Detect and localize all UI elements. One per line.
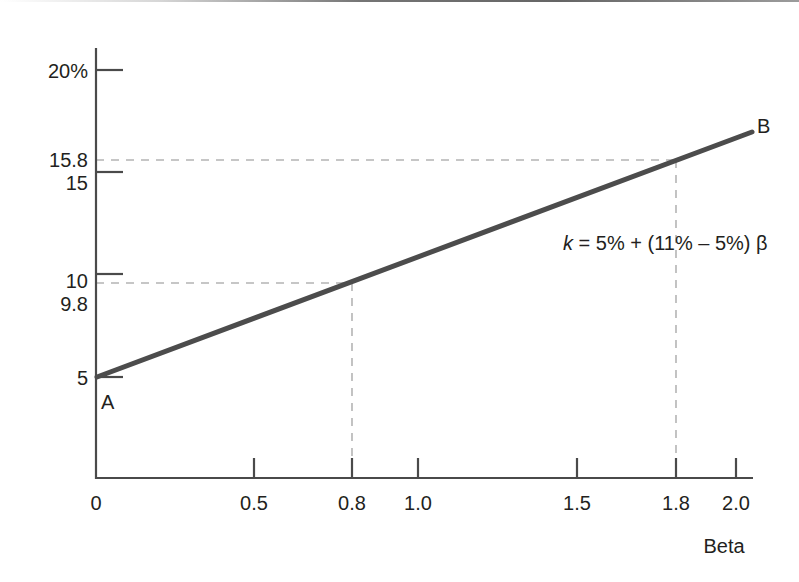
x-axis-title: Beta [703,535,745,557]
y-axis-label-15-8: 15.8 [49,149,88,171]
y-axis-label-9-8: 9.8 [60,293,88,315]
axes [95,48,753,479]
x-axis-label-1-5: 1.5 [563,492,591,514]
point-b-label: B [757,115,770,137]
y-axis-label-15: 15 [66,172,88,194]
x-axis-ticks [254,458,736,478]
reference-lines [96,160,676,478]
y-axis-label-5: 5 [77,367,88,389]
x-axis-label-1-8: 1.8 [662,492,690,514]
chart-canvas: 20% 15.8 15 10 9.8 5 0 0.5 0.8 1.0 1.5 1… [0,0,799,582]
point-a-label: A [101,391,115,413]
security-market-line [97,132,752,377]
x-axis-label-0-5: 0.5 [240,492,268,514]
x-axis-label-2-0: 2.0 [722,492,750,514]
x-axis-label-0-8: 0.8 [338,492,366,514]
y-axis-label-20: 20% [48,60,88,82]
equation-body: = 5% + (11% – 5%) β [573,232,768,254]
x-axis-label-0: 0 [90,492,101,514]
y-axis-label-10: 10 [66,270,88,292]
x-axis-label-1-0: 1.0 [404,492,432,514]
y-axis-ticks [96,70,123,377]
security-market-line-chart: 20% 15.8 15 10 9.8 5 0 0.5 0.8 1.0 1.5 1… [0,0,799,582]
equation-annotation: k = 5% + (11% – 5%) β [563,232,768,254]
